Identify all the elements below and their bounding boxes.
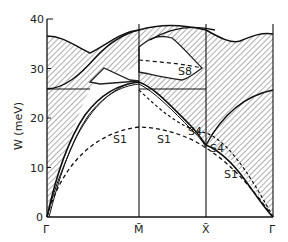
label-s1-mid: S1 — [157, 133, 171, 146]
label-s4-left: S4 — [188, 125, 202, 138]
xtick-m: M̄ — [134, 223, 144, 236]
phonon-dispersion-chart: 40 30 20 10 0 W (meV) Γ̄ M̄ X̄ Γ̄ S1 S1 … — [0, 0, 288, 242]
ytick-label-40: 40 — [30, 13, 44, 26]
label-s4-right: S4 — [210, 142, 224, 155]
label-s1-right: S1 — [224, 168, 238, 181]
label-s8: S8 — [178, 65, 192, 78]
xtick-gamma-right: Γ̄ — [269, 223, 276, 236]
label-s1-left: S1 — [113, 133, 127, 146]
y-axis-title: W (meV) — [12, 102, 25, 150]
ytick-label-10: 10 — [30, 162, 44, 175]
xtick-x: X̄ — [202, 223, 210, 236]
ytick-label-30: 30 — [30, 63, 44, 76]
ytick-label-0: 0 — [36, 211, 43, 224]
ytick-label-20: 20 — [30, 112, 44, 125]
xtick-gamma-left: Γ̄ — [43, 223, 50, 236]
